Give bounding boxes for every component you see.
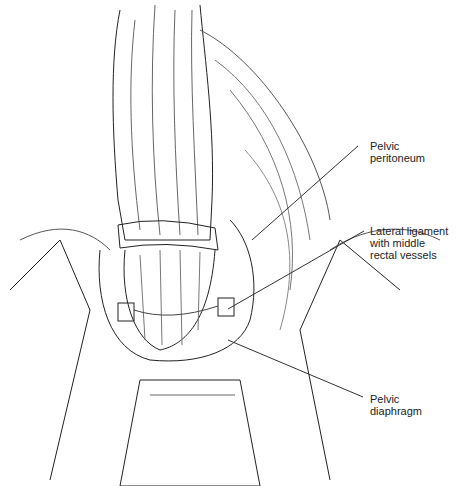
label-pelvic-diaphragm: Pelvic diaphragm [370,393,422,417]
label-lateral-ligament: Lateral ligament with middle rectal vess… [370,225,448,261]
label-pelvic-peritoneum: Pelvic peritoneum [370,140,425,164]
